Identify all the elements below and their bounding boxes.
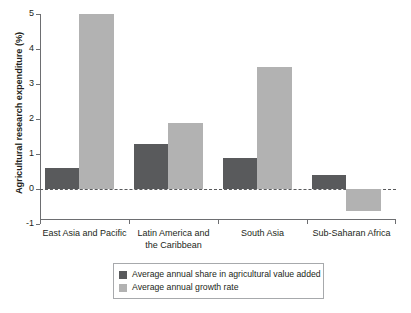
x-axis-category-label-line: South Asia xyxy=(214,228,311,240)
legend-label-growth: Average annual growth rate xyxy=(132,283,239,292)
y-tick-label: 4 xyxy=(8,44,34,53)
bar-chart: Agricultural research expenditure (%) -1… xyxy=(0,0,411,313)
y-tick-label: 2 xyxy=(8,114,34,123)
legend-label-share: Average annual share in agricultural val… xyxy=(132,270,321,279)
bar xyxy=(257,67,292,190)
zero-baseline xyxy=(40,189,396,190)
legend-item-growth: Average annual growth rate xyxy=(119,281,318,294)
x-axis-category-label: East Asia and Pacific xyxy=(36,228,133,240)
bar xyxy=(312,175,347,189)
y-tick-label: 0 xyxy=(8,184,34,193)
x-tick-mark xyxy=(395,219,396,224)
x-axis-category-label: Sub-Saharan Africa xyxy=(303,228,400,240)
x-tick-mark xyxy=(218,219,219,224)
x-axis-category-label-line: Sub-Saharan Africa xyxy=(303,228,400,240)
bar xyxy=(45,168,80,189)
x-axis-category-label: Latin America andthe Caribbean xyxy=(125,228,222,251)
y-tick-label: -1 xyxy=(8,219,34,228)
y-tick-mark xyxy=(36,224,40,225)
bar xyxy=(134,144,169,190)
x-axis-category-label-line: the Caribbean xyxy=(125,240,222,252)
y-tick-label: 3 xyxy=(8,79,34,88)
y-tick-label: 5 xyxy=(8,9,34,18)
x-tick-mark xyxy=(307,219,308,224)
legend-swatch-share-icon xyxy=(119,271,127,279)
x-tick-mark xyxy=(129,219,130,224)
x-axis-category-label-line: East Asia and Pacific xyxy=(36,228,133,240)
y-tick-label: 1 xyxy=(8,149,34,158)
legend: Average annual share in agricultural val… xyxy=(113,263,324,299)
x-tick-mark xyxy=(40,219,41,224)
bar xyxy=(79,14,114,189)
x-axis-category-label: South Asia xyxy=(214,228,311,240)
legend-item-share: Average annual share in agricultural val… xyxy=(119,268,318,281)
bar xyxy=(223,158,258,190)
x-axis-category-label-line: Latin America and xyxy=(125,228,222,240)
bar xyxy=(346,189,381,211)
bar xyxy=(168,123,203,190)
legend-swatch-growth-icon xyxy=(119,284,127,292)
